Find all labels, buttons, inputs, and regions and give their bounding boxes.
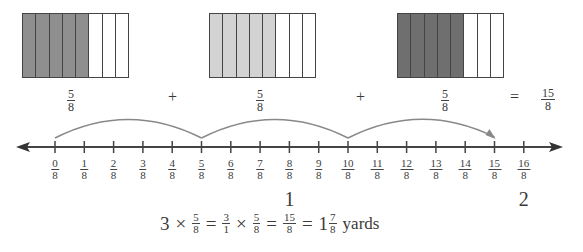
tick-label: 168 [517,158,530,181]
tick-label: 148 [459,158,472,181]
whole-number-label: 1 [284,188,294,211]
fraction-5-8: 58 [192,212,200,235]
tick-label: 08 [51,158,59,181]
tick-label: 58 [198,158,206,181]
fraction-15-8: 158 [283,212,296,235]
whole-number-label: 2 [519,188,529,211]
tick-label: 158 [488,158,501,181]
tick-label: 38 [139,158,147,181]
times-sign: × [176,213,187,235]
multiplication-equation: 3 × 58 = 31 × 58 = 158 = 1 78 yards [160,212,379,235]
times-sign: × [236,213,247,235]
tick-label: 48 [168,158,176,181]
tick-label: 98 [315,158,323,181]
tick-label: 28 [110,158,118,181]
tick-label: 68 [227,158,235,181]
equals-sign: = [206,213,217,235]
fraction-5-8: 58 [253,212,261,235]
mixed-number: 1 78 [319,212,337,235]
tick-label: 88 [286,158,294,181]
tick-label: 128 [400,158,413,181]
tick-label: 108 [342,158,355,181]
equals-sign: = [302,213,313,235]
fraction-3-1: 31 [222,212,230,235]
tick-label: 118 [371,158,384,181]
equals-sign: = [266,213,277,235]
tick-label: 78 [256,158,264,181]
tick-label: 138 [429,158,442,181]
tick-label: 18 [81,158,89,181]
factor-3: 3 [160,213,170,235]
unit-label: yards [343,214,380,234]
